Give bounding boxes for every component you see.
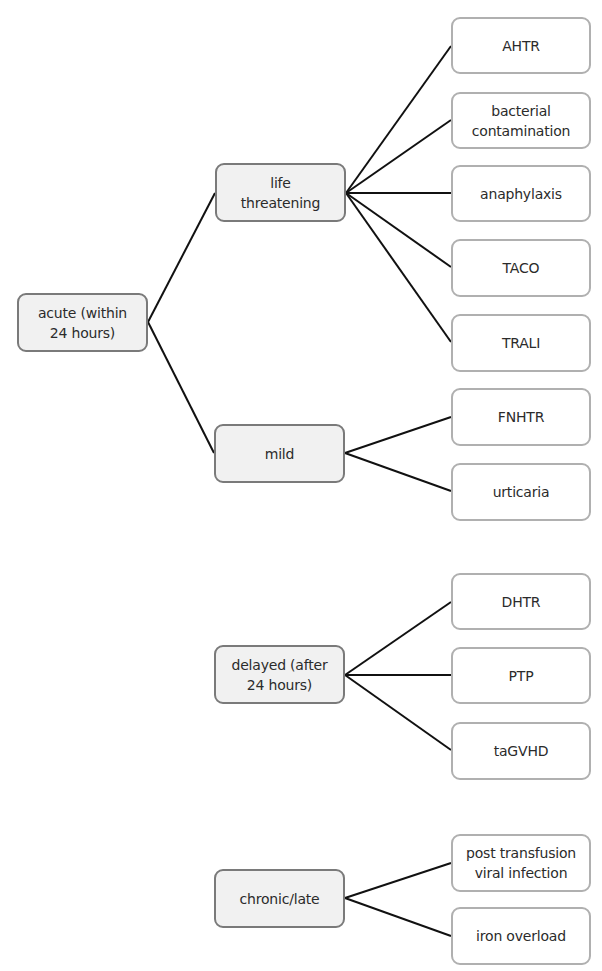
leaf-ptp: PTP <box>451 647 591 704</box>
node-delayed: delayed (after 24 hours) <box>214 645 345 704</box>
leaf-iron-overload: iron overload <box>451 907 591 965</box>
leaf-post-transfusion-viral-infection: post transfusion viral infection <box>451 834 591 892</box>
node-label: urticaria <box>493 482 550 502</box>
node-label: mild <box>265 444 295 464</box>
node-label: iron overload <box>476 926 566 946</box>
leaf-bacterial-contamination: bacterial contamination <box>451 92 591 149</box>
node-label: FNHTR <box>498 407 544 427</box>
connector-line <box>345 898 451 936</box>
node-mild: mild <box>214 424 345 483</box>
node-acute: acute (within 24 hours) <box>17 293 148 352</box>
leaf-trali: TRALI <box>451 314 591 372</box>
leaf-anaphylaxis: anaphylaxis <box>451 165 591 222</box>
leaf-urticaria: urticaria <box>451 463 591 521</box>
connector-line <box>346 46 451 193</box>
connector-line <box>148 193 215 322</box>
leaf-fnhtr: FNHTR <box>451 388 591 446</box>
leaf-tagvhd: taGVHD <box>451 722 591 780</box>
connector-line <box>345 863 451 898</box>
leaf-taco: TACO <box>451 239 591 297</box>
node-label: delayed (after 24 hours) <box>232 655 328 695</box>
node-label: chronic/late <box>240 889 320 909</box>
node-label: PTP <box>509 666 534 686</box>
node-label: TRALI <box>502 333 540 353</box>
connector-line <box>345 453 451 491</box>
leaf-ahtr: AHTR <box>451 17 591 74</box>
node-label: TACO <box>503 258 540 278</box>
leaf-dhtr: DHTR <box>451 573 591 630</box>
node-label: AHTR <box>502 36 540 56</box>
node-label: anaphylaxis <box>480 184 562 204</box>
node-label: life threatening <box>241 173 320 213</box>
node-label: post transfusion viral infection <box>466 843 576 883</box>
connector-line <box>346 193 451 342</box>
connector-line <box>345 675 451 750</box>
node-label: taGVHD <box>494 741 549 761</box>
node-label: bacterial contamination <box>472 101 570 141</box>
node-label: DHTR <box>502 592 541 612</box>
node-chronic-late: chronic/late <box>214 869 345 928</box>
connector-line <box>346 120 451 193</box>
node-life-threatening: life threatening <box>215 163 346 222</box>
connector-line <box>345 602 451 675</box>
connector-line <box>345 417 451 453</box>
connector-line <box>148 322 214 453</box>
connector-line <box>346 193 451 267</box>
node-label: acute (within 24 hours) <box>38 303 127 343</box>
